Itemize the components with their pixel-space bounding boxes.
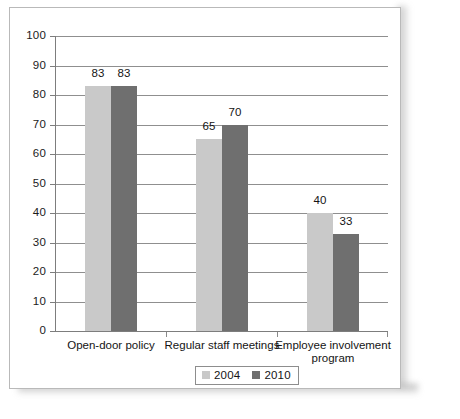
- ytick-label-50: 50: [12, 177, 46, 189]
- bar-label-2004-employee-involvement-program: 40: [302, 194, 338, 206]
- ytick-label-80: 80: [12, 88, 46, 100]
- ytick-label-100: 100: [12, 29, 46, 41]
- ytick-20: [50, 272, 55, 273]
- bar-2004-open-door-policy[interactable]: [85, 86, 111, 331]
- category-label-regular-staff-meetings: Regular staff meetings: [159, 339, 285, 352]
- bar-label-2010-regular-staff-meetings: 70: [217, 106, 253, 118]
- xtick-end: [387, 332, 388, 337]
- ytick-50: [50, 184, 55, 185]
- bar-2004-regular-staff-meetings[interactable]: [196, 139, 222, 331]
- ytick-label-20: 20: [12, 265, 46, 277]
- legend-swatch-2004-icon: [202, 371, 210, 379]
- ytick-70: [50, 125, 55, 126]
- ytick-40: [50, 213, 55, 214]
- bar-label-2010-employee-involvement-program: 33: [328, 215, 364, 227]
- ytick-30: [50, 243, 55, 244]
- legend-label-2010: 2010: [264, 369, 290, 381]
- bar-2010-employee-involvement-program[interactable]: [333, 234, 359, 331]
- bar-2010-regular-staff-meetings[interactable]: [222, 125, 248, 332]
- category-label-open-door-policy: Open-door policy: [51, 339, 171, 352]
- bar-2010-open-door-policy[interactable]: [111, 86, 137, 331]
- ytick-label-40: 40: [12, 206, 46, 218]
- category-label-line2: program: [312, 352, 355, 364]
- chart-page: 100 90 80 70 60 50 40 30 20 10 0 83 83 6…: [0, 0, 460, 419]
- bar-label-2010-open-door-policy: 83: [106, 67, 142, 79]
- xtick-sep-2: [277, 332, 278, 337]
- ytick-label-70: 70: [12, 118, 46, 130]
- chart-card: 100 90 80 70 60 50 40 30 20 10 0 83 83 6…: [9, 7, 401, 389]
- legend-item-2010[interactable]: 2010: [252, 369, 290, 381]
- category-label-employee-involvement-program: Employee involvement program: [273, 339, 393, 365]
- x-axis-line: [55, 331, 388, 332]
- legend-swatch-2010-icon: [252, 371, 260, 379]
- category-label-line1: Employee involvement: [275, 339, 391, 351]
- ytick-label-30: 30: [12, 236, 46, 248]
- bar-2004-employee-involvement-program[interactable]: [307, 213, 333, 331]
- ytick-label-0: 0: [12, 324, 46, 336]
- ytick-90: [50, 66, 55, 67]
- ytick-10: [50, 302, 55, 303]
- ytick-label-60: 60: [12, 147, 46, 159]
- ytick-0: [50, 331, 55, 332]
- legend-item-2004[interactable]: 2004: [202, 369, 240, 381]
- bar-label-2004-regular-staff-meetings: 65: [191, 120, 227, 132]
- gridline-100: [56, 36, 388, 37]
- plot-area: 100 90 80 70 60 50 40 30 20 10 0 83 83 6…: [55, 36, 388, 331]
- ytick-80: [50, 95, 55, 96]
- ytick-label-90: 90: [12, 59, 46, 71]
- ytick-60: [50, 154, 55, 155]
- ytick-100: [50, 36, 55, 37]
- legend-label-2004: 2004: [214, 369, 240, 381]
- ytick-label-10: 10: [12, 295, 46, 307]
- chart-legend: 2004 2010: [195, 366, 299, 385]
- xtick-sep-1: [166, 332, 167, 337]
